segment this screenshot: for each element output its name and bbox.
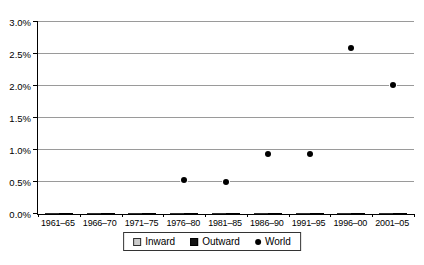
inward-bar: [87, 213, 101, 214]
bar-group: [163, 213, 205, 214]
x-axis-label: 1976–80: [162, 218, 204, 228]
bar-group: [38, 213, 80, 214]
inward-bar: [212, 213, 226, 214]
x-axis-tick: [247, 214, 248, 217]
x-axis-tick: [122, 214, 123, 217]
outward-bar: [351, 213, 365, 214]
category-slot: [80, 22, 122, 214]
inward-bar: [296, 213, 310, 214]
x-axis-tick: [372, 214, 373, 217]
x-axis-tick: [205, 214, 206, 217]
outward-bar: [268, 213, 282, 214]
bar-group: [372, 213, 414, 214]
legend-item: Inward: [133, 236, 175, 247]
category-slot: [289, 22, 331, 214]
outward-bar: [59, 213, 73, 214]
world-marker: [265, 151, 271, 157]
x-axis-label: 1961–65: [37, 218, 79, 228]
outward-swatch-icon: [190, 238, 198, 246]
y-axis-label: 3.0%: [0, 18, 31, 27]
category-slots: [38, 22, 414, 214]
y-axis-label: 0.0%: [0, 210, 31, 219]
x-axis-tick: [414, 214, 415, 217]
legend-label: Outward: [202, 236, 240, 247]
x-axis-tick: [80, 214, 81, 217]
bar-group: [289, 213, 331, 214]
category-slot: [205, 22, 247, 214]
inward-swatch-icon: [133, 238, 141, 246]
category-slot: [330, 22, 372, 214]
bar-group: [247, 213, 289, 214]
y-axis-label: 2.5%: [0, 50, 31, 59]
x-axis-labels: 1961–651966–701971–751976–801981–851986–…: [37, 218, 413, 228]
x-axis-label: 1971–75: [121, 218, 163, 228]
legend-label: Inward: [145, 236, 175, 247]
x-axis-label: 2001–05: [371, 218, 413, 228]
legend: InwardOutwardWorld: [123, 232, 301, 251]
inward-bar: [254, 213, 268, 214]
y-axis-label: 1.0%: [0, 146, 31, 155]
category-slot: [38, 22, 80, 214]
x-axis-label: 1981–85: [204, 218, 246, 228]
x-axis-label: 1996–00: [329, 218, 371, 228]
legend-label: World: [265, 236, 291, 247]
world-marker: [181, 177, 187, 183]
x-axis-tick: [289, 214, 290, 217]
y-axis-label: 1.5%: [0, 114, 31, 123]
outward-bar: [101, 213, 115, 214]
fdi-share-chart: 0.0%0.5%1.0%1.5%2.0%2.5%3.0% 1961–651966…: [0, 0, 424, 265]
inward-bar: [379, 213, 393, 214]
outward-bar: [142, 213, 156, 214]
inward-bar: [170, 213, 184, 214]
x-axis-tick: [330, 214, 331, 217]
x-axis-tick: [38, 214, 39, 217]
y-axis-label: 0.5%: [0, 178, 31, 187]
outward-bar: [393, 213, 407, 214]
x-axis-label: 1986–90: [246, 218, 288, 228]
plot-area: 0.0%0.5%1.0%1.5%2.0%2.5%3.0%: [37, 22, 414, 215]
world-marker: [307, 151, 313, 157]
outward-bar: [226, 213, 240, 214]
bar-group: [330, 213, 372, 214]
y-axis-label: 2.0%: [0, 82, 31, 91]
category-slot: [247, 22, 289, 214]
category-slot: [122, 22, 164, 214]
bar-group: [122, 213, 164, 214]
category-slot: [372, 22, 414, 214]
world-dot-icon: [255, 239, 261, 245]
outward-bar: [184, 213, 198, 214]
world-marker: [390, 82, 396, 88]
category-slot: [163, 22, 205, 214]
inward-bar: [45, 213, 59, 214]
inward-bar: [128, 213, 142, 214]
bar-group: [205, 213, 247, 214]
legend-item: Outward: [190, 236, 240, 247]
outward-bar: [310, 213, 324, 214]
world-marker: [223, 179, 229, 185]
x-axis-tick: [163, 214, 164, 217]
inward-bar: [337, 213, 351, 214]
world-marker: [348, 45, 354, 51]
legend-item: World: [255, 236, 291, 247]
bar-group: [80, 213, 122, 214]
x-axis-label: 1966–70: [79, 218, 121, 228]
x-axis-label: 1991–95: [288, 218, 330, 228]
